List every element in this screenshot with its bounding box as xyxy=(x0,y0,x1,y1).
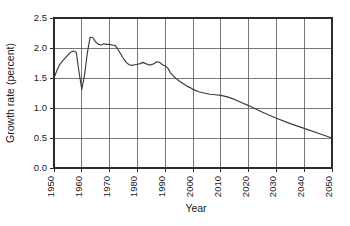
tick-marks xyxy=(50,18,332,172)
x-tick-label: 1970 xyxy=(101,176,112,197)
x-tick-label: 2010 xyxy=(212,176,223,197)
y-tick-label: 2.5 xyxy=(34,12,47,23)
line-chart: 0.00.51.01.52.02.5 195019601970198019902… xyxy=(0,0,350,226)
y-tick-label: 1.0 xyxy=(34,102,47,113)
x-axis-tick-labels: 1950196019701980199020002010202020302040… xyxy=(45,176,334,197)
y-tick-label: 0.5 xyxy=(34,132,47,143)
gridlines xyxy=(54,18,332,168)
y-tick-label: 1.5 xyxy=(34,72,47,83)
x-tick-label: 2000 xyxy=(184,176,195,197)
chart-figure: 0.00.51.01.52.02.5 195019601970198019902… xyxy=(0,0,350,226)
x-tick-label: 2020 xyxy=(240,176,251,197)
y-axis-title: Growth rate (percent) xyxy=(4,43,16,143)
x-tick-label: 1960 xyxy=(73,176,84,197)
x-tick-label: 1950 xyxy=(45,176,56,197)
x-tick-label: 2040 xyxy=(295,176,306,197)
y-tick-label: 0.0 xyxy=(34,162,47,173)
x-tick-label: 1990 xyxy=(156,176,167,197)
y-tick-label: 2.0 xyxy=(34,42,47,53)
x-tick-label: 2050 xyxy=(323,176,334,197)
y-axis-tick-labels: 0.00.51.01.52.02.5 xyxy=(34,12,47,173)
x-tick-label: 2030 xyxy=(267,176,278,197)
x-axis-title: Year xyxy=(185,202,207,214)
x-tick-label: 1980 xyxy=(128,176,139,197)
